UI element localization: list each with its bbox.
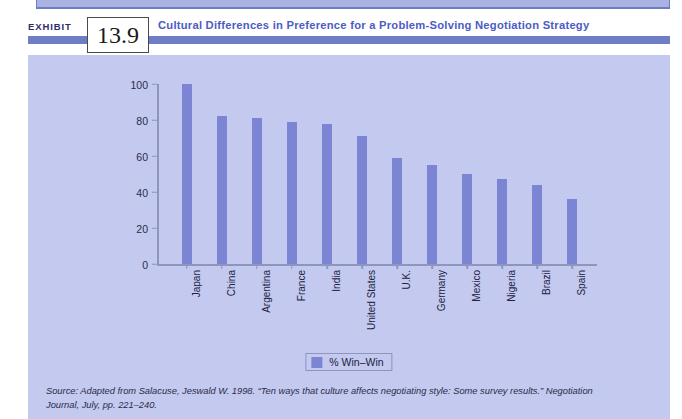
chart-legend: % Win–Win [305,353,392,371]
x-axis-tick-mark [256,265,258,269]
y-axis-tick: 60 [117,156,157,157]
source-note: Source: Adapted from Salacuse, Jeswald W… [28,381,670,419]
y-axis-tick-mark [152,263,157,265]
exhibit-number: 13.9 [97,23,139,47]
x-axis-label: Japan [191,270,202,297]
x-axis-tick-mark [467,265,469,269]
x-axis-tick-mark [502,265,504,269]
x-axis-label: United States [366,270,377,330]
y-axis-tick-label: 40 [136,186,148,198]
x-axis-label: Mexico [471,270,482,302]
legend-swatch-win-win [311,357,322,368]
x-axis-label: France [296,270,307,301]
exhibit-title: Cultural Differences in Preference for a… [158,19,589,31]
x-axis-tick-mark [291,265,293,269]
source-line-1: Source: Adapted from Salacuse, Jeswald W… [46,385,652,399]
chart-panel: 020406080100 JapanChinaArgentinaFranceIn… [28,55,670,381]
y-axis-tick: 100 [117,84,157,85]
y-axis-tick: 20 [117,228,157,229]
x-axis-labels: JapanChinaArgentinaFranceIndiaUnited Sta… [157,270,597,350]
x-axis-label: Argentina [261,270,272,313]
y-axis-tick-label: 60 [136,150,148,162]
page-top-rule [36,0,670,9]
y-axis-tick-label: 0 [142,258,148,270]
x-axis-tick-mark [572,265,574,269]
bar [182,84,192,264]
y-axis-tick-mark [152,83,157,85]
y-axis-tick: 0 [117,264,157,265]
exhibit-header: EXHIBIT 13.9 Cultural Differences in Pre… [28,17,670,55]
x-axis-label: Germany [436,270,447,311]
y-axis-line [157,84,159,265]
x-axis-tick-mark [221,265,223,269]
x-axis-label: Brazil [541,270,552,295]
y-axis-tick-mark [152,191,157,193]
x-axis-tick-mark [431,265,433,269]
y-axis-tick-mark [152,227,157,229]
legend-label-win-win: % Win–Win [329,356,383,368]
source-line-2: Journal, July, pp. 221–240. [46,399,652,413]
bar [322,124,332,264]
bar [252,118,262,264]
x-axis-label: Nigeria [506,270,517,302]
bar [462,174,472,264]
y-axis-tick: 80 [117,120,157,121]
x-axis-tick-mark [361,265,363,269]
y-axis-tick-mark [152,119,157,121]
bar [427,165,437,264]
x-axis-label: India [331,270,342,292]
y-axis-tick-label: 20 [136,222,148,234]
x-axis-label: Spain [576,270,587,296]
bar [497,179,507,264]
bar [217,116,227,264]
y-axis-tick-label: 100 [130,78,148,90]
exhibit-label: EXHIBIT [28,21,72,32]
plot-area: 020406080100 [157,84,597,265]
y-axis-tick: 40 [117,192,157,193]
exhibit-number-box: 13.9 [87,17,149,53]
bar [287,122,297,264]
x-axis-label: China [226,270,237,296]
x-axis-tick-mark [326,265,328,269]
x-axis-tick-mark [537,265,539,269]
y-axis-tick-label: 80 [136,114,148,126]
bar [357,136,367,264]
x-axis-tick-mark [396,265,398,269]
x-axis-label: U.K. [401,270,412,289]
y-axis-tick-mark [152,155,157,157]
x-axis-tick-mark [186,265,188,269]
bar [392,158,402,264]
bar [567,199,577,264]
bar [532,185,542,264]
x-axis-line [157,264,597,266]
